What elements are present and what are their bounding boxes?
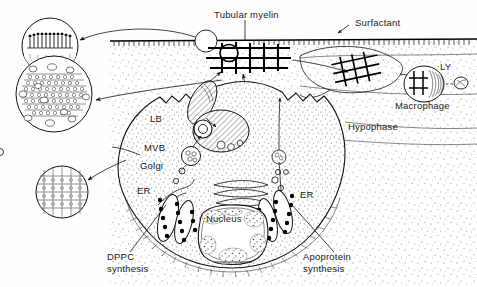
lamellar-body <box>193 110 249 152</box>
leader-surfactant <box>338 25 349 33</box>
label-dppc-synthesis: DPPC synthesis <box>107 251 148 275</box>
label-nucleus: Nucleus <box>206 214 242 225</box>
label-er-left: ER <box>137 186 151 197</box>
tubular-myelin-inset <box>36 166 88 218</box>
label-apoprotein-synthesis: Apoprotein synthesis <box>303 251 351 275</box>
label-lb: LB <box>150 114 162 125</box>
label-golgi: Golgi <box>140 161 163 172</box>
arrow-interface-to-inset1 <box>80 29 195 40</box>
label-dppc-line1: DPPC <box>107 251 148 263</box>
surfactant-diagram-figure: Tubular myelin Surfactant LY Macrophage … <box>0 0 477 287</box>
label-apoprotein-line2: synthesis <box>303 263 351 275</box>
multivesicular-body <box>182 147 201 166</box>
label-apoprotein-line1: Apoprotein <box>303 251 351 263</box>
label-ly: LY <box>440 62 451 73</box>
lamellar-body-inset <box>16 56 92 132</box>
label-dppc-line2: synthesis <box>107 263 148 275</box>
label-surfactant: Surfactant <box>355 18 400 29</box>
label-er-right: ER <box>300 190 314 201</box>
label-hypophase: Hypophase <box>348 122 398 133</box>
label-tubular-myelin: Tubular myelin <box>214 10 279 21</box>
diagram-canvas <box>0 0 477 287</box>
label-macrophage: Macrophage <box>395 101 450 112</box>
label-mvb: MVB <box>144 143 165 154</box>
